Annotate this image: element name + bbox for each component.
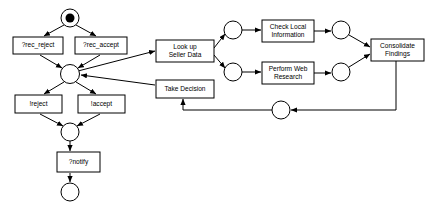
transition-box-accept[interactable] bbox=[78, 95, 125, 113]
transition-notify[interactable]: ?notify bbox=[57, 152, 100, 172]
edge-lookup_seller-to-p_web_in bbox=[214, 55, 225, 68]
diagram-canvas: ?rec_reject?rec_accept!reject!accept?not… bbox=[0, 0, 438, 212]
transition-accept[interactable]: !accept bbox=[78, 95, 125, 113]
workflow-petri-net-diagram: ?rec_reject?rec_accept!reject!accept?not… bbox=[0, 0, 438, 212]
transition-box-reject[interactable] bbox=[15, 95, 62, 113]
edge-p_local_out-to-consolidate bbox=[349, 35, 370, 47]
edge-p_middle-to-accept bbox=[76, 82, 96, 94]
transition-box-rec_accept[interactable] bbox=[75, 37, 127, 54]
edge-p_middle-to-reject bbox=[44, 82, 64, 94]
nodes-layer: ?rec_reject?rec_accept!reject!accept?not… bbox=[13, 9, 424, 201]
transition-box-web_research[interactable] bbox=[262, 62, 314, 84]
transition-box-lookup_seller[interactable] bbox=[156, 40, 214, 62]
transition-web_research[interactable]: Perform WebResearch bbox=[262, 62, 314, 84]
token-marker-p_start bbox=[66, 14, 75, 23]
place-circle-p_web_out[interactable] bbox=[332, 63, 350, 81]
transition-consolidate[interactable]: ConsolidateFindings bbox=[371, 39, 424, 61]
transition-box-notify[interactable] bbox=[57, 152, 100, 172]
edge-reject-to-p_after_act bbox=[40, 114, 63, 126]
place-p_middle[interactable] bbox=[61, 65, 80, 84]
place-p_web_out[interactable] bbox=[332, 63, 350, 81]
place-p_local_in[interactable] bbox=[224, 21, 242, 39]
place-p_web_in[interactable] bbox=[224, 63, 242, 81]
place-p_loop[interactable] bbox=[272, 101, 290, 119]
place-p_start[interactable] bbox=[61, 9, 79, 27]
place-circle-p_local_out[interactable] bbox=[332, 21, 350, 39]
place-p_local_out[interactable] bbox=[332, 21, 350, 39]
edge-p_web_out-to-consolidate bbox=[349, 54, 370, 67]
transition-lookup_seller[interactable]: Look upSeller Data bbox=[156, 40, 214, 62]
place-circle-p_loop[interactable] bbox=[272, 101, 290, 119]
transition-take_decision[interactable]: Take Decision bbox=[156, 80, 214, 98]
transition-rec_accept[interactable]: ?rec_accept bbox=[75, 37, 127, 54]
place-circle-p_after_act[interactable] bbox=[61, 123, 79, 141]
transition-box-rec_reject[interactable] bbox=[13, 37, 63, 54]
edge-p_start-to-rec_reject bbox=[44, 25, 64, 36]
transition-box-check_local[interactable] bbox=[262, 20, 314, 42]
place-circle-p_end[interactable] bbox=[61, 183, 79, 201]
edge-p_loop-to-take_decision bbox=[183, 99, 272, 110]
edge-accept-to-p_after_act bbox=[77, 114, 100, 126]
transition-check_local[interactable]: Check LocalInformation bbox=[262, 20, 314, 42]
transition-box-take_decision[interactable] bbox=[156, 80, 214, 98]
edge-take_decision-to-p_middle bbox=[81, 75, 155, 85]
transition-reject[interactable]: !reject bbox=[15, 95, 62, 113]
place-circle-p_middle[interactable] bbox=[61, 65, 80, 84]
edge-lookup_seller-to-p_local_in bbox=[214, 34, 225, 48]
place-circle-p_web_in[interactable] bbox=[224, 63, 242, 81]
place-p_end[interactable] bbox=[61, 183, 79, 201]
edge-p_start-to-rec_accept bbox=[76, 25, 96, 36]
place-circle-p_local_in[interactable] bbox=[224, 21, 242, 39]
transition-box-consolidate[interactable] bbox=[371, 39, 424, 61]
place-p_after_act[interactable] bbox=[61, 123, 79, 141]
edge-rec_reject-to-p_middle bbox=[40, 55, 62, 68]
transition-rec_reject[interactable]: ?rec_reject bbox=[13, 37, 63, 54]
